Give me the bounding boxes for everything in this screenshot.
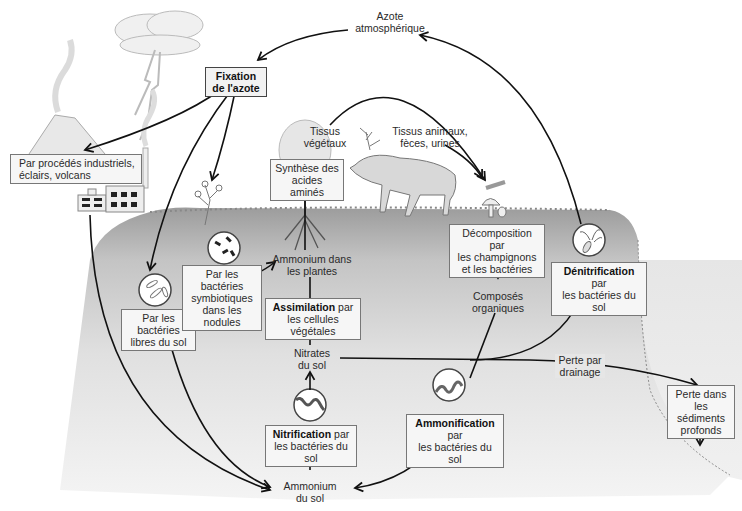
organic-line1: Composés xyxy=(465,290,531,302)
ammonium-plants-line1: Ammonium dans xyxy=(272,253,352,265)
denitrification-bold: Dénitrification xyxy=(564,265,635,277)
symbiotic-line2: symbiotiques xyxy=(187,292,257,304)
assimilation-line1: Assimilation par xyxy=(270,301,356,313)
nitrification-bold: Nitrification xyxy=(273,428,331,440)
plant-tissue-line2: végétaux xyxy=(300,137,350,149)
drainage-line2: drainage xyxy=(555,366,605,378)
atmospheric-nitrogen-line1: Azote xyxy=(340,10,440,22)
animal-tissue-label: Tissus animaux, fèces, urines xyxy=(385,125,475,149)
nitrates-line2: du sol xyxy=(290,359,334,371)
fixation-line1: Fixation xyxy=(210,70,262,82)
atmospheric-nitrogen-line2: atmosphérique xyxy=(340,22,440,34)
sediment-loss-box: Perte dans les sédiments profonds xyxy=(667,385,735,439)
ammonification-line2: les bactéries du sol xyxy=(411,441,499,465)
denitrification-rest: par xyxy=(591,277,606,289)
cycle-arrows xyxy=(0,0,742,511)
ammonification-line1: Ammonification par xyxy=(411,417,499,441)
ammonium-in-plants-label: Ammonium dans les plantes xyxy=(272,253,352,277)
nitrogen-fixation-box: Fixation de l'azote xyxy=(205,67,267,97)
symbiotic-bacteria-box: Par les bactéries symbiotiques dans les … xyxy=(182,265,262,331)
decomposition-box: Décomposition par les champignons et les… xyxy=(449,224,545,278)
sediment-line2: les sédiments xyxy=(672,400,730,424)
ammonification-bold: Ammonification xyxy=(415,417,494,429)
decomposition-line3: et les bactéries xyxy=(454,263,540,275)
denitrification-line1: Dénitrification par xyxy=(556,265,642,289)
assimilation-line2: les cellules végétales xyxy=(270,313,356,337)
ammonification-box: Ammonification par les bactéries du sol xyxy=(406,414,504,468)
symbiotic-line3: dans les nodules xyxy=(187,304,257,328)
ammonium-plants-line2: les plantes xyxy=(272,265,352,277)
decomposition-line1: Décomposition par xyxy=(454,227,540,251)
assimilation-bold: Assimilation xyxy=(273,301,335,313)
fixation-line2: de l'azote xyxy=(210,82,262,94)
industrial-fixation-box: Par procédés industriels, éclairs, volca… xyxy=(10,154,142,184)
drainage-line1: Perte par xyxy=(555,354,605,366)
nitrification-rest: par xyxy=(331,428,349,440)
assimilation-box: Assimilation par les cellules végétales xyxy=(265,298,361,340)
ammonium-soil-line1: Ammonium xyxy=(282,480,338,492)
animal-tissue-line1: Tissus animaux, xyxy=(385,125,475,137)
soil-nitrates-label: Nitrates du sol xyxy=(290,347,334,371)
organic-line2: organiques xyxy=(465,302,531,314)
amino-line2: acides aminés xyxy=(275,174,339,198)
nitrification-line2: les bactéries du sol xyxy=(270,440,352,464)
ammonification-rest: par xyxy=(447,429,462,441)
animal-tissue-line2: fèces, urines xyxy=(385,137,475,149)
industrial-line2: éclairs, volcans xyxy=(19,169,137,181)
amino-acid-synthesis-box: Synthèse des acides aminés xyxy=(270,159,344,201)
ammonium-soil-line2: du sol xyxy=(282,492,338,504)
assimilation-rest: par xyxy=(335,301,353,313)
nitrification-box: Nitrification par les bactéries du sol xyxy=(265,425,357,467)
plant-tissue-label: Tissus végétaux xyxy=(300,125,350,149)
soil-ammonium-label: Ammonium du sol xyxy=(282,480,338,504)
sediment-line1: Perte dans xyxy=(672,388,730,400)
free-bacteria-line2: libres du sol xyxy=(126,336,191,348)
decomposition-line2: les champignons xyxy=(454,251,540,263)
symbiotic-line1: Par les bactéries xyxy=(187,268,257,292)
sediment-line3: profonds xyxy=(672,424,730,436)
nitrates-line1: Nitrates xyxy=(290,347,334,359)
denitrification-box: Dénitrification par les bactéries du sol xyxy=(551,262,647,316)
denitrification-line2: les bactéries du sol xyxy=(556,289,642,313)
nitrification-line1: Nitrification par xyxy=(270,428,352,440)
industrial-line1: Par procédés industriels, xyxy=(19,157,137,169)
amino-line1: Synthèse des xyxy=(275,162,339,174)
drainage-loss-label: Perte par drainage xyxy=(555,354,605,378)
plant-tissue-line1: Tissus xyxy=(300,125,350,137)
organic-compounds-label: Composés organiques xyxy=(465,290,531,314)
atmospheric-nitrogen-label: Azote atmosphérique xyxy=(340,10,440,34)
